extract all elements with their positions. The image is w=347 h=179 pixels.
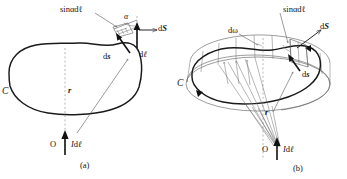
- panel-b-graphics: [186, 13, 330, 160]
- sin-alpha-projection-a: [114, 20, 137, 29]
- r-vector-a: [77, 59, 128, 133]
- label-current-dl-b: Idℓ: [283, 145, 294, 154]
- label-current-dl-a: Idℓ: [71, 140, 82, 149]
- r-vector-b: [273, 72, 293, 112]
- dS-vector-b: [297, 30, 321, 48]
- label-r-a: r: [68, 86, 71, 95]
- caption-panel-a: (a): [80, 160, 89, 170]
- label-ds-b: ds: [302, 70, 310, 79]
- label-domega-b: dω: [228, 26, 238, 35]
- label-curve-c-a: C: [2, 87, 8, 97]
- label-origin-a: O: [50, 140, 56, 149]
- current-dl-arrowhead-a: [61, 130, 68, 139]
- figure-root: sinαdℓ α dS ds dℓ r C O Idℓ (a) sinαdℓ d…: [0, 0, 347, 179]
- leader-sin-alpha-a: [95, 13, 117, 27]
- panel-a-graphics: [9, 13, 157, 155]
- label-alpha-a: α: [124, 13, 128, 21]
- label-r-b: r: [265, 108, 268, 117]
- caption-panel-b: (b): [293, 163, 303, 173]
- label-dl-a: dℓ: [139, 50, 147, 59]
- label-sin-alpha-dl-a: sinαdℓ: [60, 5, 83, 14]
- leader-domega-b: [239, 34, 258, 45]
- closed-curve-c-a: [9, 43, 142, 115]
- label-dS-a: dS: [158, 24, 167, 33]
- label-origin-b: O: [262, 145, 268, 154]
- leader-sin-alpha-b: [280, 13, 288, 43]
- label-curve-c-b: C: [177, 79, 183, 89]
- label-ds-a: ds: [103, 52, 111, 61]
- figure-canvas: [0, 0, 347, 179]
- label-dS-b: dS: [320, 22, 329, 31]
- base-ellipse-back-b: [187, 55, 330, 110]
- label-sin-alpha-dl-b: sinαdℓ: [283, 5, 306, 14]
- domega-cell-mark-b: [258, 44, 262, 46]
